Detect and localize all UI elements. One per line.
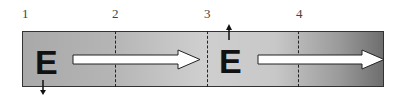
arrow-down-icon (40, 80, 46, 95)
flow-arrow-2-icon (258, 50, 384, 69)
flow-arrow-1-icon (73, 50, 200, 69)
arrow-up-icon (226, 24, 232, 40)
arrows-layer (0, 0, 404, 96)
